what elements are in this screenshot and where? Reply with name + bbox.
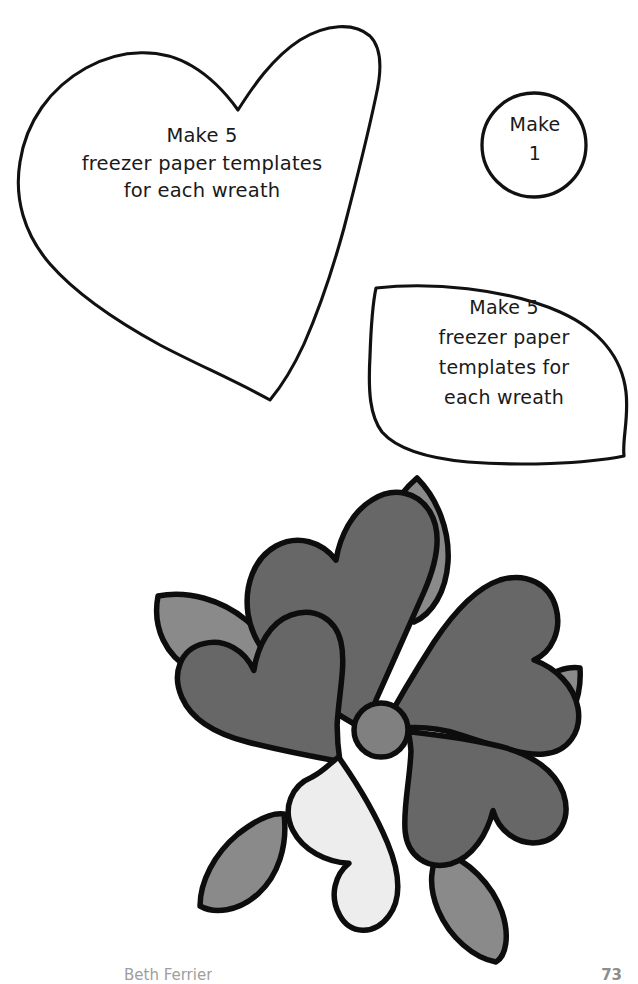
footer-credit: Beth Ferrier	[124, 966, 212, 984]
flower-illustration	[0, 0, 638, 984]
leaf-lower-right	[432, 852, 507, 962]
pattern-page: Make 5 freezer paper templates for each …	[0, 0, 638, 984]
leaf-lower-left	[200, 814, 285, 911]
footer-page-number: 73	[601, 966, 622, 984]
petal-bottom-light[interactable]	[279, 750, 407, 941]
flower-center-circle[interactable]	[354, 703, 408, 757]
